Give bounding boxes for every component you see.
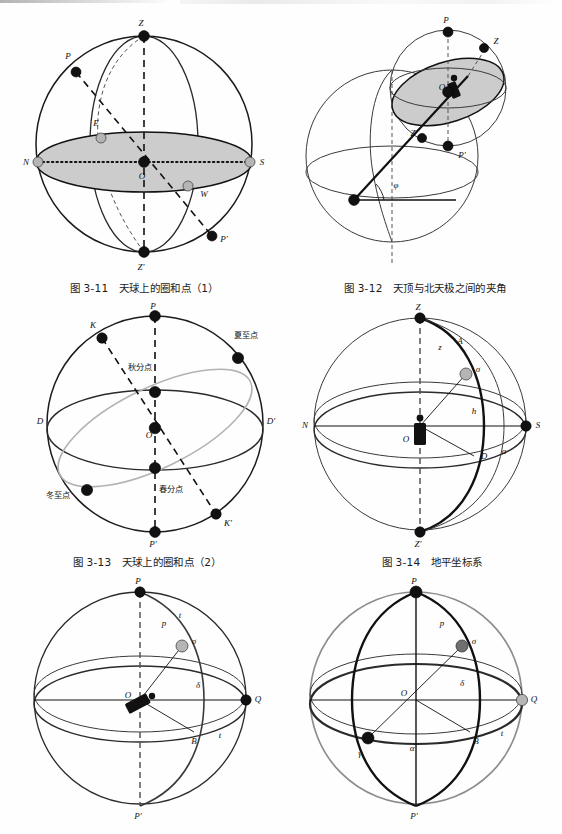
figure-3-13: P P' K K' D D' O 秋分点 夏至点 春分点 冬至点 图 3-13 … xyxy=(30,302,280,550)
point-vernal-equinox xyxy=(362,732,374,744)
point-P xyxy=(150,311,161,322)
label-E: E xyxy=(92,118,99,128)
label-Q: Q xyxy=(255,694,262,704)
point-nadir xyxy=(415,527,425,537)
point-Z xyxy=(479,43,488,52)
label-Z-prime: Z' xyxy=(411,128,419,138)
scan-artifact-top-left xyxy=(0,0,175,3)
label-z: z xyxy=(437,342,442,352)
point-north xyxy=(33,157,43,167)
label-Q: Q xyxy=(531,694,538,704)
point-autumn-equinox xyxy=(149,386,160,397)
label-O: O xyxy=(439,82,446,92)
label-winter-solstice: 冬至点 xyxy=(46,490,70,500)
point-P-prime xyxy=(443,141,453,151)
figure-3-12: P Z Z' P' O φ 图 3-12 天顶与北天极之间的夹角 xyxy=(296,14,554,274)
label-P: P xyxy=(149,301,156,311)
label-Z: Z xyxy=(415,302,421,312)
point-north-celestial-pole xyxy=(135,587,145,597)
point-south xyxy=(521,421,531,431)
figure-3-12-caption: 图 3-12 天顶与北天极之间的夹角 xyxy=(296,280,554,295)
point-Z-prime xyxy=(417,133,426,142)
point-P xyxy=(443,27,453,37)
point-south xyxy=(245,157,255,167)
point-star xyxy=(460,368,472,380)
label-star-sigma: σ xyxy=(472,636,477,646)
scan-artifact-top-right xyxy=(180,0,560,4)
figure-equatorial-right-ascension: P P' O Q σ B γ α δ t p xyxy=(298,586,550,822)
point-Q xyxy=(516,694,527,705)
label-O: O xyxy=(401,688,408,698)
label-alpha: α xyxy=(410,743,415,753)
label-p: p xyxy=(439,618,445,628)
label-t-lower: t xyxy=(219,730,222,740)
label-P: P xyxy=(410,576,417,586)
hour-circle xyxy=(416,592,480,806)
label-star-sigma: σ xyxy=(192,636,197,646)
point-east xyxy=(96,133,106,143)
label-t-upper: t xyxy=(179,610,182,620)
label-A: A xyxy=(456,336,463,346)
label-S: S xyxy=(536,420,541,430)
figure-3-11-caption: 图 3-11 天球上的圈和点（1） xyxy=(8,280,280,295)
label-O: O xyxy=(125,690,132,700)
figure-3-14: Z Z' N S O σ A z h D a 图 3-14 地平坐标系 xyxy=(308,302,548,550)
page-canvas: Z Z' P P' N S E W O 图 3-11 天球上的圈和点（1） xyxy=(0,0,562,834)
earth-meridian-arc xyxy=(370,70,392,242)
label-D: D xyxy=(36,416,44,426)
label-star-sigma: σ xyxy=(476,364,481,374)
point-K-prime xyxy=(211,509,221,519)
point-observer xyxy=(139,157,150,168)
label-P-prime: P' xyxy=(148,539,157,549)
label-delta: δ xyxy=(196,680,201,690)
figure-3-14-caption: 图 3-14 地平坐标系 xyxy=(312,554,552,569)
label-P-prime: P' xyxy=(457,150,466,160)
label-Z-prime: Z' xyxy=(138,262,146,272)
label-p: p xyxy=(161,618,167,628)
label-spring-equinox: 春分点 xyxy=(159,484,183,494)
ray-to-equator-foot xyxy=(416,700,470,732)
label-D-prime: D' xyxy=(266,416,276,426)
figure-equatorial-hour-angle: P P' O Q σ B t t p δ xyxy=(22,586,274,822)
ray-to-equator-foot xyxy=(140,700,194,732)
label-h: h xyxy=(472,406,477,416)
vertical-circle xyxy=(420,318,484,532)
label-P-prime: P' xyxy=(409,811,418,821)
point-P-prime xyxy=(150,527,161,538)
point-nadir xyxy=(139,247,150,258)
point-north-pole xyxy=(71,67,81,77)
label-t: t xyxy=(501,728,504,738)
ray-gamma-to-star xyxy=(368,646,462,738)
point-west xyxy=(183,181,193,191)
point-winter-solstice xyxy=(81,484,92,495)
label-Z: Z xyxy=(493,36,499,46)
label-P: P xyxy=(64,51,71,61)
label-P-prime: P' xyxy=(133,811,142,821)
point-zenith xyxy=(415,313,425,323)
point-star xyxy=(176,640,188,652)
label-Z: Z xyxy=(138,18,144,28)
point-zenith xyxy=(139,31,150,42)
point-earth-center xyxy=(349,195,360,206)
label-N: N xyxy=(22,157,30,167)
point-K xyxy=(97,333,107,343)
label-angle-phi: φ xyxy=(394,180,399,190)
figure-3-13-caption: 图 3-13 天球上的圈和点（2） xyxy=(22,554,272,569)
label-gamma: γ xyxy=(358,748,362,758)
label-N: N xyxy=(301,420,309,430)
label-P: P xyxy=(134,576,141,586)
label-summer-solstice: 夏至点 xyxy=(234,330,258,340)
label-S: S xyxy=(260,157,265,167)
label-P: P xyxy=(442,15,449,25)
label-Z-prime: Z' xyxy=(415,539,423,549)
point-summer-solstice xyxy=(232,352,243,363)
label-D: D xyxy=(480,451,488,461)
label-O: O xyxy=(139,171,146,181)
label-B: B xyxy=(191,736,197,746)
point-south-pole xyxy=(207,231,217,241)
point-Q xyxy=(241,695,251,705)
hour-circle xyxy=(140,592,204,806)
label-delta: δ xyxy=(460,678,465,688)
figure-3-11: Z Z' P P' N S E W O 图 3-11 天球上的圈和点（1） xyxy=(8,14,280,274)
label-autumn-equinox: 秋分点 xyxy=(128,362,152,372)
